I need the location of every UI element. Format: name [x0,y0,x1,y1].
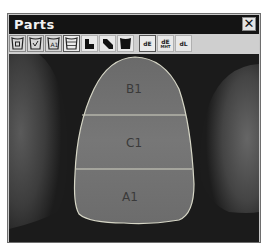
dl-button[interactable]: dL [175,35,192,52]
svg-text:A1: A1 [51,41,59,48]
region-label-b1: B1 [126,82,142,96]
de-button[interactable]: dE [139,35,156,52]
region-split-diagonal-icon [101,37,114,50]
de-mht-button[interactable]: dEMHT [157,35,174,52]
parts-window: Parts ✕ A1 dE dEMHT [7,13,261,243]
tooth-frame-lines-icon [65,37,78,50]
tooth-frame-check-button[interactable] [27,35,44,52]
tooth-frame-text-icon: A1 [47,37,60,50]
tooth-frame-check-icon [29,37,42,50]
de-mht-label: dEMHT [160,39,170,49]
tooth-frame-square-icon [11,37,24,50]
tooth-frame-lines-button[interactable] [63,35,80,52]
tooth-frame-text-button[interactable]: A1 [45,35,62,52]
region-fill-icon [119,37,132,50]
tooth-image[interactable]: B1 C1 A1 [9,54,259,242]
region-label-c1: C1 [126,136,142,150]
close-button[interactable]: ✕ [242,17,256,31]
region-split-horizontal-button[interactable] [81,35,98,52]
region-label-a1: A1 [122,190,138,204]
region-split-horizontal-icon [83,37,96,50]
window-title: Parts [14,16,55,33]
dl-label: dL [179,41,187,47]
title-bar[interactable]: Parts ✕ [9,15,259,34]
tooth-frame-square-button[interactable] [9,35,26,52]
toolbar: A1 dE dEMHT dL [9,34,259,54]
de-label: dE [143,41,151,47]
de-mht-sub: MHT [160,45,170,49]
region-fill-button[interactable] [117,35,134,52]
region-split-diagonal-button[interactable] [99,35,116,52]
